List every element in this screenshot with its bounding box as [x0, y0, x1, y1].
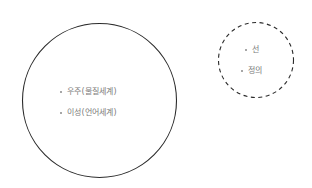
- small-circle-item-justice: 정의: [241, 64, 262, 75]
- item-text: 이성(언어세계): [67, 108, 117, 117]
- large-solid-circle: [23, 24, 177, 178]
- small-dashed-circle: [219, 23, 294, 98]
- bullet-icon: [60, 112, 62, 114]
- diagram-canvas: [0, 0, 312, 188]
- bullet-icon: [60, 91, 62, 93]
- small-circle-item-good: 선: [245, 43, 259, 54]
- item-text: 선: [252, 45, 259, 54]
- bullet-icon: [245, 49, 247, 51]
- item-text: 정의: [248, 66, 262, 75]
- large-circle-item-universe: 우주(물질세계): [60, 85, 117, 96]
- item-text: 우주(물질세계): [67, 87, 117, 96]
- large-circle-item-reason: 이성(언어세계): [60, 106, 117, 117]
- bullet-icon: [241, 70, 243, 72]
